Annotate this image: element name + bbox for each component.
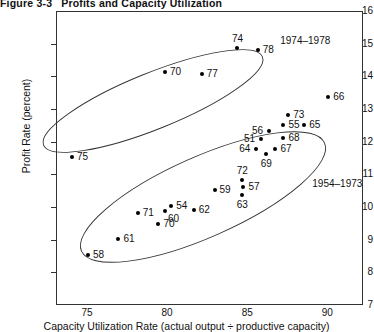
x-tick-label: 90 [312, 308, 342, 318]
figure-number: Figure 3-3 [0, 0, 52, 9]
data-point [264, 152, 268, 156]
data-point-label: 69 [261, 159, 272, 169]
data-point [281, 123, 285, 127]
figure-caption: Profits and Capacity Utilization [61, 0, 222, 9]
data-point-label: 66 [333, 92, 344, 102]
data-point-label: 54 [176, 201, 187, 211]
data-point-label: 61 [123, 234, 134, 244]
data-point [213, 188, 217, 192]
plot-area: 7478777075667355655668516764697257635954… [56, 11, 363, 305]
data-point-label: 57 [248, 182, 259, 192]
data-point-label: 71 [143, 208, 154, 218]
x-tick-label: 75 [72, 308, 102, 318]
data-point [192, 208, 196, 212]
data-point [267, 129, 271, 133]
y-axis-title: Profit Rate (percent) [20, 46, 32, 206]
x-axis-title: Capacity Utilization Rate (actual output… [0, 320, 373, 332]
data-point-label: 68 [288, 133, 299, 143]
data-point [259, 137, 263, 141]
group-ellipses [1, 1, 374, 332]
data-point-label: 65 [309, 120, 320, 130]
data-point [163, 70, 167, 74]
data-point-label: 78 [263, 45, 274, 55]
data-point [235, 46, 239, 50]
data-point [70, 155, 74, 159]
x-tick-label: 85 [232, 308, 262, 318]
data-point-label: 70 [170, 67, 181, 77]
data-point [116, 237, 120, 241]
data-point [240, 193, 244, 197]
data-point [169, 204, 173, 208]
data-point [156, 222, 160, 226]
data-point-label: 64 [239, 144, 250, 154]
x-tick-label: 80 [152, 308, 182, 318]
figure-title: Figure 3-3Profits and Capacity Utilizati… [0, 0, 373, 11]
data-point-label: 74 [232, 34, 243, 44]
data-point [326, 95, 330, 99]
group-annotation-label: 1954–1973 [312, 179, 362, 189]
data-point-label: 63 [237, 200, 248, 210]
data-point [86, 253, 90, 257]
data-point [254, 147, 258, 151]
data-point [136, 211, 140, 215]
data-point [273, 147, 277, 151]
data-point [240, 178, 244, 182]
data-point-label: 59 [220, 185, 231, 195]
data-point-label: 77 [207, 69, 218, 79]
data-point [200, 72, 204, 76]
data-point-label: 55 [288, 120, 299, 130]
ellipse-1974-1978 [33, 31, 273, 171]
data-point [286, 113, 290, 117]
group-annotation-label: 1974–1978 [280, 36, 330, 46]
data-point-label: 72 [237, 166, 248, 176]
data-point [302, 123, 306, 127]
data-point-label: 75 [77, 152, 88, 162]
data-point [241, 185, 245, 189]
data-point-label: 58 [93, 250, 104, 260]
data-point-label: 70 [163, 219, 174, 229]
data-point-label: 62 [199, 205, 210, 215]
data-point [163, 209, 167, 213]
data-point [256, 48, 260, 52]
data-point-label: 67 [280, 144, 291, 154]
data-point [281, 136, 285, 140]
